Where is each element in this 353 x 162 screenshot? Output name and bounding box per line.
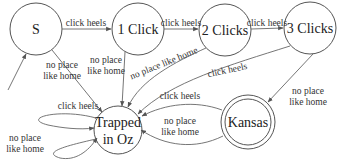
- edge-2-to-3-label: click heels: [247, 18, 288, 28]
- state-1-click-label: 1 Click: [118, 22, 159, 37]
- state-1-click: 1 Click: [112, 3, 164, 55]
- edge-3-to-kansas-label-line2: like home: [289, 97, 327, 107]
- state-2-clicks: 2 Clicks: [199, 4, 251, 56]
- edge-oz-self-loop-lower-label-line2: like home: [6, 144, 44, 154]
- edge-oz-self-loop-lower: [53, 138, 97, 159]
- edge-s-to-1-label: click heels: [66, 18, 107, 28]
- edge-1-to-oz: [122, 52, 125, 106]
- start-arrow: [8, 54, 26, 90]
- edge-kansas-to-oz-lower-label-line2: like home: [161, 127, 199, 137]
- state-3-clicks-label: 3 Clicks: [287, 21, 333, 36]
- state-s: S: [10, 3, 62, 55]
- edge-kansas-to-oz-upper-label: click heels: [160, 91, 201, 101]
- state-s-label: S: [32, 22, 40, 37]
- state-diagram: S 1 Click 2 Clicks 3 Clicks Trapped in O…: [0, 0, 353, 162]
- state-kansas: Kansas: [221, 95, 275, 149]
- edge-3-to-oz-label: click heels: [207, 61, 249, 79]
- state-2-clicks-label: 2 Clicks: [202, 23, 248, 38]
- edge-oz-self-loop-upper-label: click heels: [58, 101, 99, 111]
- edge-kansas-to-oz-lower-label-line1: no place: [164, 116, 196, 126]
- state-oz-label-line1: Trapped: [95, 115, 141, 130]
- edge-oz-self-loop-lower-label-line1: no place: [9, 133, 41, 143]
- edge-kansas-to-oz-upper: [142, 104, 222, 116]
- edge-s-to-oz-label-line1: no place: [46, 60, 78, 70]
- edge-s-to-oz-label-line2: like home: [43, 71, 81, 81]
- state-oz-label-line2: in Oz: [103, 132, 134, 147]
- state-trapped-in-oz: Trapped in Oz: [94, 106, 142, 154]
- edge-3-to-kansas-label-line1: no place: [292, 86, 324, 96]
- edge-oz-self-loop-upper: [39, 114, 96, 129]
- state-3-clicks: 3 Clicks: [284, 2, 336, 54]
- edge-1-to-oz-label-line1: no place: [90, 55, 122, 65]
- state-kansas-label: Kansas: [228, 115, 268, 130]
- edge-1-to-2-label: click heels: [161, 18, 202, 28]
- edge-2-to-3: [251, 28, 283, 29]
- edge-1-to-oz-label-line2: like home: [87, 66, 125, 76]
